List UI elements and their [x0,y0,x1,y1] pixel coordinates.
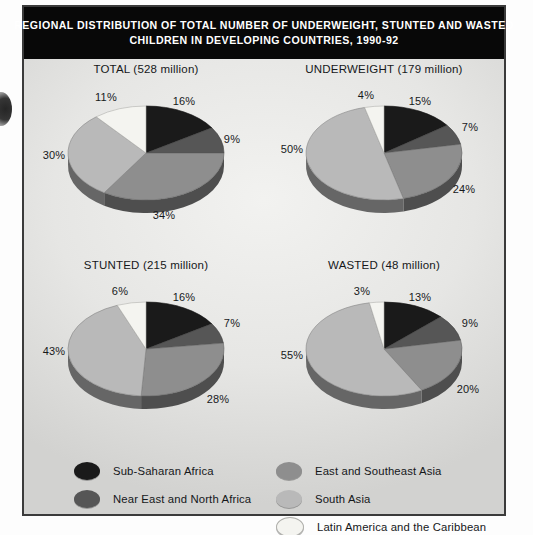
legend-item[interactable]: South Asia [276,485,486,513]
legend-label: Latin America and the Caribbean [317,521,486,533]
legend-swatch-icon [276,517,304,535]
legend-column-left: Sub-Saharan AfricaNear East and North Af… [74,457,251,513]
pie-label-east-and-southeast-asia: 20% [457,383,480,395]
pie-label-east-and-southeast-asia: 34% [153,209,176,221]
page-edge-artifact [0,92,12,126]
pie-stage-total: 16%9%34%30%11% [53,91,239,227]
legend-item[interactable]: Near East and North Africa [74,485,251,513]
legend-swatch-icon [276,462,302,480]
pie-label-east-and-southeast-asia: 28% [207,393,230,405]
pie-label-latin-america-and-the-caribbean: 6% [112,285,128,297]
legend-swatch-icon [276,490,302,508]
legend-label: Sub-Saharan Africa [113,465,214,477]
pie-label-near-east-and-north-africa: 7% [224,317,240,329]
legend-column-right: East and Southeast AsiaSouth AsiaLatin A… [276,457,486,535]
pie-label-near-east-and-north-africa: 7% [462,121,478,133]
pie-label-latin-america-and-the-caribbean: 3% [354,285,370,297]
pie-panel-underweight: UNDERWEIGHT (179 million) 15%7%24%50%4% [264,59,504,254]
pie-title-total: TOTAL (528 million) [26,63,266,75]
pie-label-latin-america-and-the-caribbean: 4% [358,89,374,101]
pie-label-near-east-and-north-africa: 9% [462,317,478,329]
legend-item[interactable]: East and Southeast Asia [276,457,486,485]
legend-label: East and Southeast Asia [315,465,442,477]
pie-label-sub-saharan-africa: 13% [409,291,432,303]
pie-total [53,91,239,227]
legend-item[interactable]: Sub-Saharan Africa [74,457,251,485]
legend-swatch-icon [74,490,100,508]
pie-slice-east-and-southeast-asia[interactable] [141,343,224,396]
pie-label-south-asia: 30% [43,149,66,161]
figure-title-line-1: REGIONAL DISTRIBUTION OF TOTAL NUMBER OF… [14,18,514,33]
pie-label-near-east-and-north-africa: 9% [224,133,240,145]
legend-label: Near East and North Africa [113,493,251,505]
figure-title-bar: REGIONAL DISTRIBUTION OF TOTAL NUMBER OF… [24,7,504,59]
pie-top-faces [306,106,462,200]
pie-title-underweight: UNDERWEIGHT (179 million) [264,63,504,75]
pie-stage-underweight: 15%7%24%50%4% [291,91,477,227]
pie-panel-stunted: STUNTED (215 million) 16%7%28%43%6% [26,255,266,450]
pie-top-faces [306,302,462,396]
pie-label-sub-saharan-africa: 16% [173,95,196,107]
pie-title-wasted: WASTED (48 million) [264,259,504,271]
pie-stage-stunted: 16%7%28%43%6% [53,287,239,423]
legend-item[interactable]: Latin America and the Caribbean [276,513,486,535]
pie-label-latin-america-and-the-caribbean: 11% [95,91,117,103]
legend-label: South Asia [315,493,371,505]
pie-label-south-asia: 43% [43,345,66,357]
pie-label-sub-saharan-africa: 16% [173,291,196,303]
pie-underweight [291,91,477,227]
figure-frame: REGIONAL DISTRIBUTION OF TOTAL NUMBER OF… [22,5,506,516]
pie-label-south-asia: 55% [281,349,304,361]
pie-top-faces [68,106,224,200]
figure-page: REGIONAL DISTRIBUTION OF TOTAL NUMBER OF… [0,0,533,535]
figure-title-line-2: CHILDREN IN DEVELOPING COUNTRIES, 1990-9… [129,33,398,48]
legend: Sub-Saharan AfricaNear East and North Af… [24,457,504,535]
pie-stage-wasted: 13%9%20%55%3% [291,287,477,423]
legend-swatch-icon [74,462,100,480]
pie-wasted [291,287,477,423]
pie-charts-area: TOTAL (528 million) 16%9%34%30%11% UNDER… [24,59,504,514]
pie-top-faces [68,302,224,396]
pie-label-east-and-southeast-asia: 24% [453,183,476,195]
pie-panel-total: TOTAL (528 million) 16%9%34%30%11% [26,59,266,254]
pie-label-south-asia: 50% [281,143,304,155]
pie-label-sub-saharan-africa: 15% [409,95,432,107]
pie-title-stunted: STUNTED (215 million) [26,259,266,271]
pie-panel-wasted: WASTED (48 million) 13%9%20%55%3% [264,255,504,450]
